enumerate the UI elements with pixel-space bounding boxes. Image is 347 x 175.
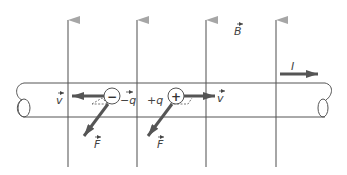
field-label-text: B [234,25,242,38]
charge-sign: + [171,90,181,104]
field-label: B [234,24,243,38]
current-indicator: I [280,60,318,74]
velocity-label: v [217,92,224,105]
current-label: I [291,60,294,73]
velocity-label: v [56,94,63,107]
positive-charge: + +q v F [147,88,225,151]
force-label: F [94,138,101,151]
charge-label: +q [147,94,163,107]
lorentz-force-diagram: B I − v −q F + +q v F [0,0,347,175]
force-arrow [148,104,172,136]
force-label: F [157,138,164,151]
charge-sign: − [107,90,117,104]
force-arrow [84,104,108,136]
charge-label: −q [120,94,136,107]
